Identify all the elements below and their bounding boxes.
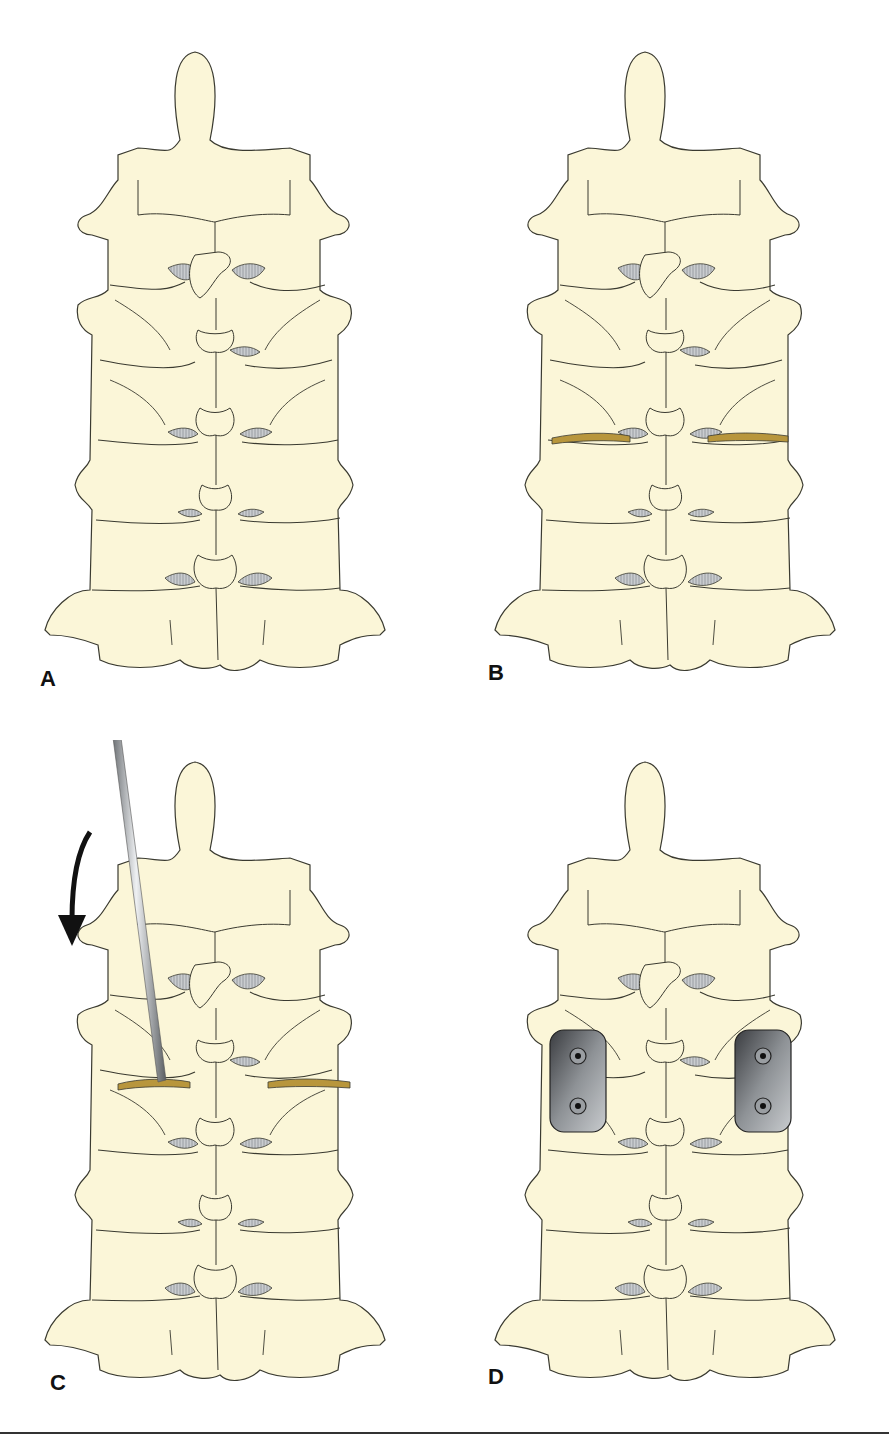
panel-d [470, 740, 870, 1390]
panel-c [20, 740, 420, 1390]
panel-a [20, 30, 420, 680]
panel-label-a: A [40, 666, 56, 692]
fixation-plate-left [550, 1030, 606, 1132]
cervical-spine-illustration-d [470, 740, 870, 1390]
osteotomy-cut-right [708, 433, 788, 442]
panel-label-d: D [488, 1364, 504, 1390]
cervical-spine-illustration-b [470, 30, 870, 680]
fixation-plate-right [735, 1030, 791, 1132]
rod-and-arrow-layer [20, 740, 420, 1390]
panel-label-c: C [50, 1370, 66, 1396]
panel-label-b: B [488, 660, 504, 686]
curved-down-arrow-icon [58, 832, 90, 946]
cervical-spine-illustration-a [20, 30, 420, 680]
panel-b [470, 30, 870, 680]
bottom-divider [0, 1432, 889, 1434]
instrument-rod [112, 740, 166, 1082]
